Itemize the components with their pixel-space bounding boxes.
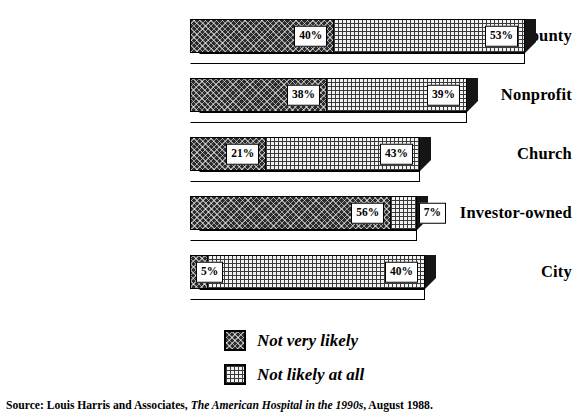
chart-canvas: County 40% 53% Nonprofit 38% — [0, 0, 576, 419]
legend-label: Not very likely — [257, 331, 358, 351]
segment-not-likely-at-all: 43% — [266, 138, 419, 170]
bar-row-investor-owned: Investor-owned 56% 7% — [0, 190, 576, 236]
legend-swatch-light-icon — [224, 364, 246, 385]
bar-row-church: Church 21% 43% — [0, 131, 576, 177]
bar-row-city: City 5% 40% — [0, 249, 576, 295]
segment-not-likely-at-all: 40% — [208, 256, 424, 288]
value-label: 43% — [380, 144, 413, 165]
value-label: 7% — [419, 203, 446, 224]
bar-city: 5% 40% — [190, 255, 425, 289]
value-label: 21% — [226, 144, 259, 165]
segment-not-likely-at-all: 7% — [391, 197, 416, 229]
bar-church: 21% 43% — [190, 137, 420, 171]
segment-not-very-likely: 5% — [191, 256, 208, 288]
value-label: 40% — [385, 262, 418, 283]
bar-bottom-face — [190, 289, 425, 300]
value-label: 39% — [427, 85, 460, 106]
segment-not-very-likely: 38% — [191, 79, 327, 111]
bar-bottom-face — [190, 53, 525, 64]
source-prefix: Source: Louis Harris and Associates, — [6, 399, 188, 412]
value-label: 5% — [196, 262, 223, 283]
value-label: 53% — [485, 26, 518, 47]
bar-bottom-face — [190, 171, 420, 182]
legend-label: Not likely at all — [257, 365, 364, 385]
bar-face: 56% 7% — [190, 196, 417, 230]
bar-row-nonprofit: Nonprofit 38% 39% — [0, 72, 576, 118]
bar-row-county: County 40% 53% — [0, 13, 576, 59]
bar-face: 5% 40% — [190, 255, 425, 289]
bar-face: 38% 39% — [190, 78, 467, 112]
bar-bottom-face — [190, 230, 417, 241]
source-title: The American Hospital in the 1990s — [191, 399, 364, 412]
bar-investor-owned: 56% 7% — [190, 196, 417, 230]
value-label: 38% — [287, 85, 320, 106]
bar-nonprofit: 38% 39% — [190, 78, 467, 112]
legend-swatch-dark-icon — [224, 330, 246, 351]
segment-not-likely-at-all: 39% — [327, 79, 466, 111]
segment-not-very-likely: 40% — [191, 20, 334, 52]
bar-face: 40% 53% — [190, 19, 525, 53]
legend-item-not-likely-at-all: Not likely at all — [224, 364, 364, 385]
source-note: Source: Louis Harris and Associates, The… — [6, 399, 433, 412]
bar-county: 40% 53% — [190, 19, 525, 53]
source-suffix: , August 1988. — [363, 399, 433, 412]
value-label: 56% — [351, 203, 384, 224]
legend-item-not-very-likely: Not very likely — [224, 330, 358, 351]
value-label: 40% — [294, 26, 327, 47]
bar-face: 21% 43% — [190, 137, 420, 171]
segment-not-very-likely: 21% — [191, 138, 266, 170]
bar-bottom-face — [190, 112, 467, 123]
segment-not-very-likely: 56% — [191, 197, 391, 229]
segment-not-likely-at-all: 53% — [334, 20, 524, 52]
